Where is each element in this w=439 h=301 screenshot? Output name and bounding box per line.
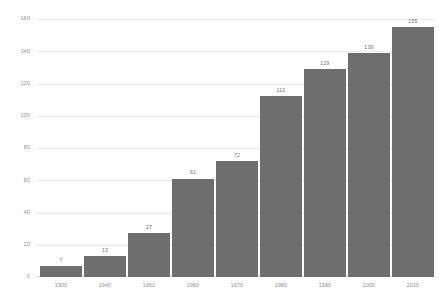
y-tick-label-160: 160 <box>8 16 30 21</box>
bar-value-1940: 13 <box>85 248 125 253</box>
bar-1990[interactable] <box>304 69 346 277</box>
bar-group-1952[interactable]: 27 <box>128 19 170 277</box>
bar-chart: 160 140 120 100 80 60 40 20 0 7 13 <box>0 0 439 301</box>
bar-value-2010: 155 <box>393 19 433 24</box>
bar-value-1970: 72 <box>217 153 257 158</box>
bars-layer: 7 13 27 61 72 <box>36 19 434 277</box>
bar-value-1900: 7 <box>41 258 81 263</box>
bar-group-2010[interactable]: 155 <box>392 19 434 277</box>
bar-group-1940[interactable]: 13 <box>84 19 126 277</box>
bar-value-1952: 27 <box>129 225 169 230</box>
bar-group-1980[interactable]: 112 <box>260 19 302 277</box>
bar-2000[interactable] <box>348 53 390 277</box>
bar-1952[interactable] <box>128 233 170 277</box>
x-tick-label-2010: 2010 <box>391 283 435 288</box>
bar-value-1980: 112 <box>261 88 301 93</box>
x-tick-label-1940: 1940 <box>83 283 127 288</box>
x-tick-label-1980: 1980 <box>259 283 303 288</box>
bar-value-1960: 61 <box>173 170 213 175</box>
x-axis-tick-labels: 1900 1940 1952 1960 1970 1980 1990 2000 … <box>36 283 434 297</box>
plot-area: 7 13 27 61 72 <box>36 19 434 277</box>
x-tick-label-1900: 1900 <box>39 283 83 288</box>
bar-2010[interactable] <box>392 27 434 277</box>
bar-group-2000[interactable]: 139 <box>348 19 390 277</box>
x-tick-label-1990: 1990 <box>303 283 347 288</box>
x-tick-label-1970: 1970 <box>215 283 259 288</box>
bar-1900[interactable] <box>40 266 82 277</box>
y-tick-label-60: 60 <box>8 178 30 183</box>
y-tick-label-140: 140 <box>8 49 30 54</box>
bar-value-2000: 139 <box>349 45 389 50</box>
bar-1960[interactable] <box>172 179 214 277</box>
bar-1970[interactable] <box>216 161 258 277</box>
bar-1980[interactable] <box>260 96 302 277</box>
y-tick-label-100: 100 <box>8 113 30 118</box>
x-tick-label-1960: 1960 <box>171 283 215 288</box>
y-tick-label-0: 0 <box>8 274 30 279</box>
x-tick-label-2000: 2000 <box>347 283 391 288</box>
y-tick-label-20: 20 <box>8 242 30 247</box>
bar-value-1990: 129 <box>305 61 345 66</box>
bar-group-1970[interactable]: 72 <box>216 19 258 277</box>
bar-group-1990[interactable]: 129 <box>304 19 346 277</box>
y-tick-label-40: 40 <box>8 210 30 215</box>
bar-group-1960[interactable]: 61 <box>172 19 214 277</box>
bar-1940[interactable] <box>84 256 126 277</box>
x-tick-label-1952: 1952 <box>127 283 171 288</box>
y-tick-label-80: 80 <box>8 145 30 150</box>
bar-group-1900[interactable]: 7 <box>40 19 82 277</box>
y-tick-label-120: 120 <box>8 81 30 86</box>
